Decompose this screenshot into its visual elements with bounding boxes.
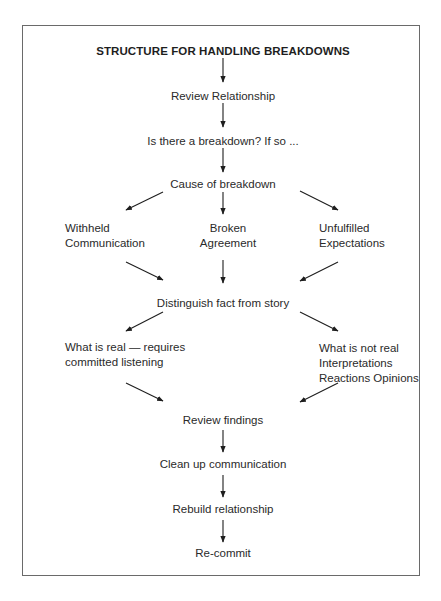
cause-broken-line1: Broken xyxy=(200,221,256,236)
step-cause: Cause of breakdown xyxy=(170,177,275,192)
fact-real: What is real — requires committed listen… xyxy=(65,340,185,370)
arrow-diagonal-icon xyxy=(126,312,163,331)
step-recommit: Re-commit xyxy=(195,546,251,561)
step-review-relationship: Review Relationship xyxy=(171,89,275,104)
arrow-diagonal-icon xyxy=(300,312,338,331)
cause-broken-line2: Agreement xyxy=(200,236,256,251)
fact-real-line2: committed listening xyxy=(65,355,185,370)
cause-withheld-line1: Withheld xyxy=(65,221,145,236)
cause-unfulfilled-line2: Expectations xyxy=(319,236,385,251)
fact-real-line1: What is real — requires xyxy=(65,340,185,355)
arrow-diagonal-icon xyxy=(300,262,338,281)
fact-not-real-line1: What is not real xyxy=(319,341,419,356)
cause-withheld-line2: Communication xyxy=(65,236,145,251)
step-is-breakdown: Is there a breakdown? If so ... xyxy=(147,134,299,149)
diagram-title: STRUCTURE FOR HANDLING BREAKDOWNS xyxy=(96,44,350,59)
fact-not-real-line2: Interpretations xyxy=(319,356,419,371)
step-review-findings: Review findings xyxy=(183,413,264,428)
arrow-diagonal-icon xyxy=(126,383,163,401)
step-rebuild: Rebuild relationship xyxy=(172,502,273,517)
cause-withheld: Withheld Communication xyxy=(65,221,145,251)
cause-broken: Broken Agreement xyxy=(200,221,256,251)
step-clean-up: Clean up communication xyxy=(160,457,287,472)
cause-unfulfilled: Unfulfilled Expectations xyxy=(319,221,385,251)
arrow-diagonal-icon xyxy=(126,192,163,210)
cause-unfulfilled-line1: Unfulfilled xyxy=(319,221,385,236)
fact-not-real: What is not real Interpretations Reactio… xyxy=(319,341,419,386)
arrow-diagonal-icon xyxy=(300,191,338,210)
arrow-diagonal-icon xyxy=(126,262,163,280)
step-distinguish: Distinguish fact from story xyxy=(157,296,289,311)
fact-not-real-line3: Reactions Opinions xyxy=(319,371,419,386)
